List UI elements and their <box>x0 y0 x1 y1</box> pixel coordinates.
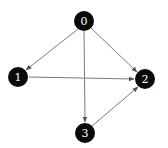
node-2: 2 <box>135 69 155 89</box>
edge-1-2 <box>29 77 134 79</box>
edge-0-3 <box>84 31 85 122</box>
node-2-label: 2 <box>142 73 149 86</box>
directed-graph: 0 1 2 3 <box>0 0 168 148</box>
node-0: 0 <box>74 11 94 31</box>
node-1-label: 1 <box>15 71 22 84</box>
edge-3-2 <box>92 87 138 126</box>
node-3: 3 <box>75 123 95 143</box>
node-0-label: 0 <box>81 15 88 28</box>
edge-0-1 <box>26 29 78 70</box>
edge-0-2 <box>91 28 137 72</box>
node-1: 1 <box>8 67 28 87</box>
node-3-label: 3 <box>82 127 89 140</box>
